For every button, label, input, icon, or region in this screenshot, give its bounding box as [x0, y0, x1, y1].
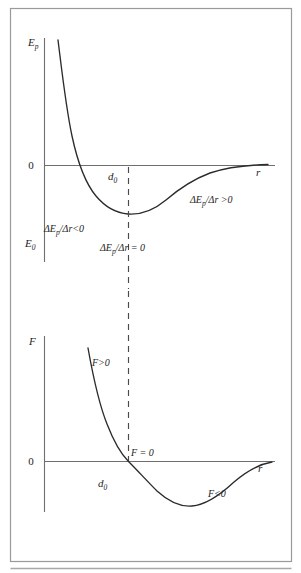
figure-frame: [11, 9, 292, 562]
f-zero-tick-label: 0: [28, 455, 34, 467]
ep-annotation-positive-slope: ΔEp/Δr >0: [189, 194, 233, 208]
f-d0-label: d0: [98, 477, 108, 492]
ep-ann-zero-rest: /Δr = 0: [115, 242, 145, 253]
ep-d0-label: d0: [108, 170, 118, 185]
ep-y-axis-label: Ep: [27, 36, 39, 51]
ep-zero-tick-label: 0: [28, 159, 34, 171]
physics-figure: Ep 0 E0 r d0 ΔEp/Δr<0 ΔEp/Δr = 0 ΔEp/Δr …: [0, 0, 301, 573]
force-panel: F 0 r d0 F>0 F = 0 F<0: [28, 291, 275, 512]
ep-ann-pos-rest: /Δr >0: [205, 194, 233, 205]
ep-min-tick-label: E0: [24, 237, 36, 252]
f-curve: [88, 348, 272, 506]
ep-x-axis-label: r: [256, 166, 261, 178]
ep-annotation-negative-slope: ΔEp/Δr<0: [43, 223, 84, 237]
f-x-axis-label: r: [258, 462, 263, 474]
ep-ann-zero-delta: ΔE: [99, 242, 112, 253]
figure-container: Ep 0 E0 r d0 ΔEp/Δr<0 ΔEp/Δr = 0 ΔEp/Δr …: [0, 0, 301, 573]
ep-curve: [58, 40, 268, 214]
f-annotation-negative: F<0: [207, 488, 226, 499]
ep-ann-neg-rest: /Δr<0: [59, 223, 84, 234]
ep-min-tick-sub: 0: [32, 243, 36, 252]
ep-y-axis-label-sub: p: [34, 42, 39, 51]
f-y-axis-label: F: [28, 335, 36, 347]
f-annotation-positive: F>0: [91, 357, 110, 368]
ep-d0-sub: 0: [114, 176, 118, 185]
potential-energy-panel: Ep 0 E0 r d0 ΔEp/Δr<0 ΔEp/Δr = 0 ΔEp/Δr …: [24, 36, 275, 289]
f-d0-sub: 0: [104, 483, 108, 492]
ep-ann-neg-delta: ΔE: [43, 223, 56, 234]
ep-ann-pos-delta: ΔE: [189, 194, 202, 205]
f-annotation-zero: F = 0: [130, 447, 154, 458]
ep-annotation-zero-slope: ΔEp/Δr = 0: [99, 242, 145, 256]
